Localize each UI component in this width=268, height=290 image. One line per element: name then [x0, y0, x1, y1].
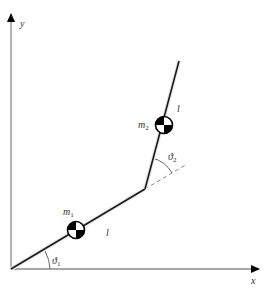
mass-m1-label: m1 — [63, 206, 74, 219]
x-axis-label: x — [250, 275, 256, 286]
mass-m2-icon — [156, 117, 173, 134]
mass-m2-label: m2 — [138, 119, 149, 132]
mass-m1-icon — [68, 222, 85, 239]
y-axis-label: y — [19, 18, 25, 29]
theta2-label: ϑ2 — [168, 151, 177, 164]
two-link-pendulum-diagram: y x ϑ1 ϑ2 l l m1 m2 — [0, 0, 268, 290]
link-1-length-label: l — [106, 227, 109, 238]
theta1-arc — [45, 251, 50, 269]
link-2-length-label: l — [177, 103, 180, 114]
theta1-label: ϑ1 — [52, 255, 61, 268]
